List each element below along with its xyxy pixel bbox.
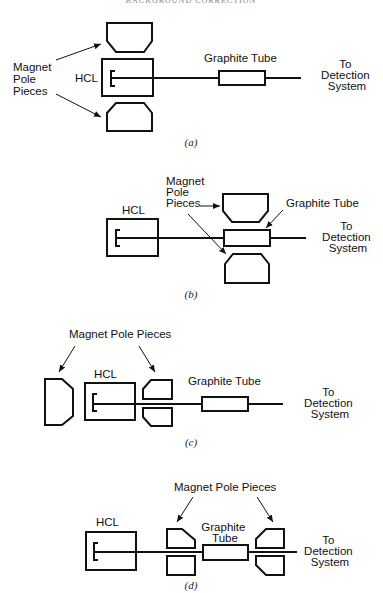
magnet-pole-right-lower [143, 408, 172, 426]
detection-label: To Detection System [304, 386, 356, 420]
magnet-label: Magnet Pole Pieces [166, 175, 208, 209]
arrow-icon [56, 44, 101, 60]
zeeman-configurations-diagram: BACKGROUND CORRECTION Magnet Pole Pieces… [0, 0, 383, 593]
caption-c: (c) [185, 436, 198, 449]
arrow-icon [177, 497, 193, 522]
cathode-icon [93, 394, 97, 411]
detection-label: To Detection System [304, 534, 356, 568]
hcl-label: HCL [96, 516, 120, 528]
graphite-tube [219, 71, 265, 85]
arrow-icon [56, 94, 101, 117]
panel-a: Magnet Pole Pieces HCL Graphite Tube To … [13, 23, 373, 149]
magnet-label: Magnet Pole Pieces [174, 481, 277, 493]
graphite-tube-label: Graphite Tube [201, 521, 248, 544]
arrow-icon [139, 346, 155, 372]
hcl-label: HCL [75, 72, 99, 84]
arrow-icon [59, 346, 75, 372]
arrow-icon [188, 214, 226, 254]
magnet-pole-upper [107, 23, 152, 52]
magnet-label: Magnet Pole Pieces [13, 61, 55, 97]
magnet-label: Magnet Pole Pieces [69, 328, 172, 340]
magnet-pole-left-lower [167, 556, 195, 575]
graphite-tube-label: Graphite Tube [286, 197, 359, 209]
caption-d: (d) [185, 579, 198, 592]
magnet-pole-lower [107, 103, 152, 131]
graphite-tube [203, 545, 248, 560]
graphite-tube [224, 230, 270, 246]
magnet-pole-right-upper [143, 380, 172, 399]
magnet-pole-left [45, 379, 73, 425]
panel-c: Magnet Pole Pieces HCL Graphite Tube To … [45, 328, 356, 449]
page-header: BACKGROUND CORRECTION [126, 0, 257, 5]
arrow-icon [257, 497, 273, 522]
caption-a: (a) [185, 136, 198, 149]
detection-label: To Detection System [321, 58, 373, 92]
arrow-icon [266, 210, 283, 228]
magnet-pole-lower [225, 254, 269, 283]
graphite-tube-label: Graphite Tube [188, 375, 261, 387]
magnet-pole-right-lower [256, 556, 284, 575]
panel-b: Magnet Pole Pieces HCL Graphite Tube To … [107, 175, 374, 301]
magnet-pole-upper [223, 194, 268, 222]
magnet-pole-left-upper [167, 529, 195, 548]
graphite-tube [202, 397, 248, 411]
magnet-pole-right-upper [256, 529, 284, 548]
panel-d: Magnet Pole Pieces HCL Graphite Tube To … [86, 481, 356, 592]
caption-b: (b) [185, 288, 198, 301]
graphite-tube-label: Graphite Tube [204, 52, 277, 64]
hcl-label: HCL [94, 368, 118, 380]
hcl-label: HCL [122, 204, 146, 216]
detection-label: To Detection System [322, 220, 374, 254]
